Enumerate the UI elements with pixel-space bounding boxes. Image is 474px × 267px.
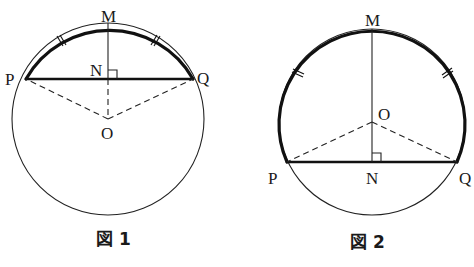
right-angle-mark-1: [108, 70, 117, 79]
right-angle-mark-2: [372, 153, 381, 162]
segment-op-2: [287, 122, 372, 162]
segment-oq-1: [108, 79, 193, 119]
segment-op-1: [26, 79, 108, 119]
label-n-1: N: [90, 61, 102, 80]
figure-2: M O P N Q 図 2: [268, 11, 471, 252]
label-p-1: P: [5, 70, 14, 89]
label-o-1: O: [101, 124, 113, 143]
caption-figure-1: 図 1: [96, 229, 131, 249]
label-m-2: M: [365, 11, 380, 30]
caption-figure-2: 図 2: [350, 232, 385, 252]
arc-pq-bold-1: [26, 30, 193, 79]
figure-1: M N P Q O 図 1: [5, 7, 209, 249]
segment-oq-2: [372, 122, 457, 162]
label-n-2: N: [366, 169, 378, 188]
label-m-1: M: [101, 7, 116, 26]
label-q-1: Q: [197, 69, 209, 88]
label-q-2: Q: [459, 169, 471, 188]
label-p-2: P: [268, 169, 277, 188]
diagram-canvas: M N P Q O 図 1 M O P N: [0, 0, 474, 267]
label-o-2: O: [378, 105, 390, 124]
